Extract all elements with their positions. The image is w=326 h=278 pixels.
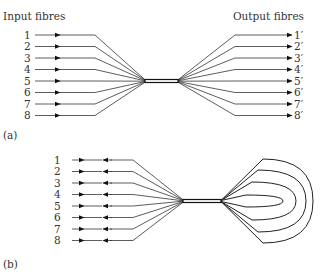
output-label: 7′: [294, 98, 304, 110]
panel-a-transmissive-star: Input fibres Output fibres 12345678 1′2′…: [3, 10, 304, 141]
input-fibre: [58, 82, 145, 104]
input-fibres-title: Input fibres: [3, 10, 65, 22]
loop-fibre: [221, 159, 313, 243]
input-label: 7: [24, 98, 31, 110]
star-coupler-diagram: Input fibres Output fibres 12345678 1′2′…: [0, 0, 326, 278]
loop-fibre: [221, 182, 296, 220]
input-label: 1: [24, 29, 31, 41]
input-label: 4: [24, 63, 31, 75]
port-label: 4: [54, 188, 61, 200]
input-label: 2: [24, 40, 31, 52]
port-label: 8: [54, 234, 61, 246]
output-label: 5′: [294, 75, 304, 87]
loop-fibre: [221, 170, 306, 232]
coupler-fused-section-a: [145, 80, 178, 83]
input-fibre: [58, 47, 145, 81]
input-fibre: [58, 35, 145, 80]
port-fibre: [110, 202, 183, 218]
output-label: 4′: [294, 63, 304, 75]
port-label: 5: [54, 200, 61, 212]
port-label: 7: [54, 223, 61, 235]
loop-fibre: [221, 195, 283, 207]
input-fibres: 12345678: [24, 29, 145, 122]
output-fibre: [178, 47, 292, 81]
loop-back-fibres: [221, 159, 313, 243]
port-label: 6: [54, 211, 61, 223]
output-label: 1′: [294, 29, 304, 41]
output-label: 2′: [294, 40, 304, 52]
input-label: 8: [24, 109, 31, 121]
bidirectional-ports: 12345678: [54, 154, 183, 247]
output-label: 3′: [294, 52, 304, 64]
port-fibre: [110, 183, 183, 200]
input-label: 3: [24, 52, 31, 64]
port-label: 1: [54, 154, 61, 166]
output-fibres: 1′2′3′4′5′6′7′8′: [178, 29, 304, 122]
panel-b-reflective-star: 12345678 (b): [3, 154, 313, 271]
coupler-fused-section-b: [183, 200, 221, 203]
port-label: 3: [54, 177, 61, 189]
input-label: 5: [24, 75, 31, 87]
caption-a: (a): [3, 129, 17, 141]
output-fibre: [178, 82, 292, 93]
output-fibre: [178, 35, 292, 80]
output-label: 8′: [294, 109, 304, 121]
caption-b: (b): [3, 258, 18, 270]
output-fibre: [178, 70, 292, 81]
port-label: 2: [54, 165, 61, 177]
output-label: 6′: [294, 86, 304, 98]
output-fibres-title: Output fibres: [233, 10, 304, 22]
port-fibre: [110, 195, 183, 201]
output-fibre: [178, 82, 292, 115]
input-label: 6: [24, 86, 31, 98]
